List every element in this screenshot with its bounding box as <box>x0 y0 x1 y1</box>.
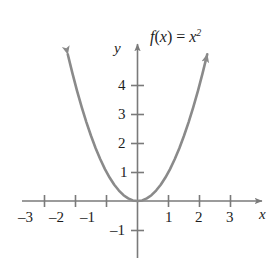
function-equals: = <box>176 28 185 45</box>
function-close-paren: ) <box>167 28 172 45</box>
y-tick-label-2: 2 <box>118 136 126 151</box>
graph-figure: –3 –2 –1 1 2 3 4 3 2 1 –1 y x f(x) = x2 <box>0 0 280 273</box>
function-label: f(x) = x2 <box>150 28 201 45</box>
x-axis-label: x <box>259 207 266 222</box>
x-tick-label-2: 2 <box>195 210 203 225</box>
y-axis-label: y <box>114 41 121 56</box>
y-tick-label-4: 4 <box>118 78 126 93</box>
y-tick-label-3: 3 <box>118 107 126 122</box>
x-tick-label--1: –1 <box>80 210 95 225</box>
function-exponent: 2 <box>196 27 201 38</box>
y-tick-label--1: –1 <box>110 223 125 238</box>
x-tick-label-1: 1 <box>165 210 173 225</box>
x-tick-label--2: –2 <box>49 210 64 225</box>
x-tick-label-3: 3 <box>226 210 234 225</box>
function-argument: x <box>160 28 167 45</box>
coordinate-plane-svg <box>0 0 280 273</box>
y-tick-label-1: 1 <box>120 165 128 180</box>
x-tick-label--3: –3 <box>18 210 33 225</box>
